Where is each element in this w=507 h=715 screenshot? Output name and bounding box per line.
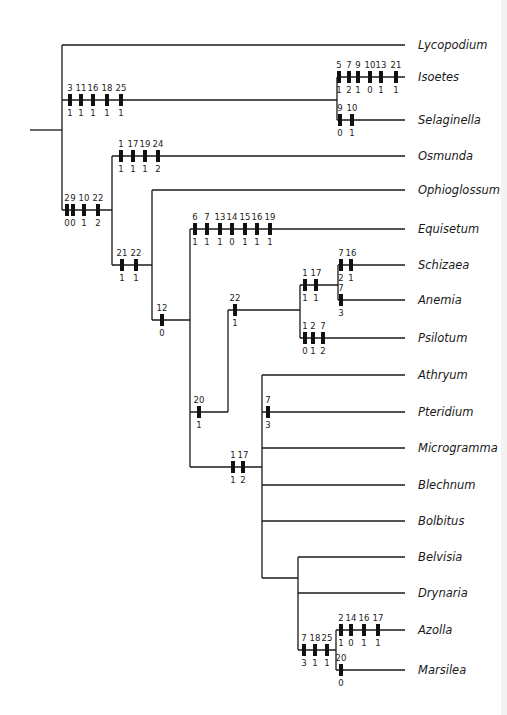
synapomorphy-bar-icon [143, 150, 147, 162]
character-number: 1 [118, 139, 123, 149]
synapomorphy-bar-icon [231, 461, 235, 473]
character-number: 1 [302, 321, 307, 331]
synapomorphy-bar-icon [368, 71, 372, 83]
character-state: 0 [338, 678, 343, 688]
character-state: 1 [142, 164, 147, 174]
character-state: 1 [118, 164, 123, 174]
character-number: 9 [70, 193, 75, 203]
character-state: 1 [217, 237, 222, 247]
character-change-mark: 61 [192, 212, 197, 247]
synapomorphy-bar-icon [230, 223, 234, 235]
character-number: 16 [252, 212, 263, 222]
character-number: 21 [117, 248, 128, 258]
character-state: 1 [196, 420, 201, 430]
character-state: 2 [155, 164, 160, 174]
taxon-labels: LycopodiumIsoetesSelaginellaOsmundaOphio… [417, 38, 500, 677]
character-number: 25 [116, 83, 127, 93]
character-state: 0 [367, 85, 372, 95]
synapomorphy-bar-icon [243, 223, 247, 235]
synapomorphy-bar-icon [68, 94, 72, 106]
character-change-mark: 11 [118, 139, 123, 174]
synapomorphy-bar-icon [255, 223, 259, 235]
character-state: 0 [302, 346, 307, 356]
taxon-label: Pteridium [418, 405, 473, 419]
synapomorphy-bar-icon [65, 204, 69, 216]
character-number: 15 [240, 212, 251, 222]
taxon-label: Athryum [417, 368, 468, 382]
character-number: 9 [337, 103, 342, 113]
character-number: 13 [215, 212, 226, 222]
character-number: 6 [192, 212, 197, 222]
character-state: 1 [310, 346, 315, 356]
synapomorphy-bar-icon [241, 461, 245, 473]
synapomorphy-bar-icon [205, 223, 209, 235]
synapomorphy-bar-icon [105, 94, 109, 106]
character-state: 1 [119, 273, 124, 283]
synapomorphy-bar-icon [71, 204, 75, 216]
synapomorphy-bar-icon [356, 71, 360, 83]
synapomorphy-bar-icon [337, 71, 341, 83]
taxon-label: Blechnum [418, 478, 476, 492]
character-state: 1 [232, 318, 237, 328]
character-number: 2 [310, 321, 315, 331]
character-state: 1 [302, 293, 307, 303]
character-number: 17 [128, 139, 139, 149]
taxon-label: Belvisia [418, 550, 462, 564]
character-number: 3 [67, 83, 72, 93]
character-number: 16 [359, 613, 370, 623]
character-number: 11 [76, 83, 87, 93]
character-change-mark: 91 [355, 60, 360, 95]
tree-branches [30, 45, 405, 670]
character-number: 10 [79, 193, 90, 203]
character-state: 1 [230, 475, 235, 485]
synapomorphy-bar-icon [339, 624, 343, 636]
character-change-mark: 73 [301, 633, 306, 668]
character-state: 1 [204, 237, 209, 247]
synapomorphy-bar-icon [91, 94, 95, 106]
character-state: 1 [133, 273, 138, 283]
cladogram: 3111116118125151729110013121190101209010… [0, 0, 507, 715]
character-change-mark: 73 [338, 283, 343, 318]
taxon-label: Drynaria [418, 586, 468, 600]
taxon-label: Microgramma [418, 441, 498, 455]
synapomorphy-bar-icon [376, 624, 380, 636]
character-state: 3 [265, 420, 270, 430]
synapomorphy-bar-icon [302, 644, 306, 656]
character-state: 2 [95, 218, 100, 228]
character-state: 1 [378, 85, 383, 95]
character-number: 18 [102, 83, 113, 93]
synapomorphy-bar-icon [338, 114, 342, 126]
character-state: 3 [301, 658, 306, 668]
character-number: 7 [346, 60, 351, 70]
character-state: 1 [393, 85, 398, 95]
character-state: 0 [70, 218, 75, 228]
synapomorphy-bar-icon [119, 150, 123, 162]
character-number: 20 [194, 395, 205, 405]
character-state: 1 [313, 293, 318, 303]
synapomorphy-bar-icon [233, 304, 237, 316]
character-change-mark: 51 [336, 60, 341, 95]
synapomorphy-bar-icon [311, 332, 315, 344]
character-state: 1 [254, 237, 259, 247]
synapomorphy-bar-icon [303, 332, 307, 344]
character-state: 0 [229, 237, 234, 247]
synapomorphy-bar-icon [349, 259, 353, 271]
synapomorphy-bar-icon [119, 94, 123, 106]
character-state: 1 [78, 108, 83, 118]
character-state: 1 [67, 108, 72, 118]
character-state: 1 [81, 218, 86, 228]
taxon-label: Ophioglossum [418, 183, 500, 197]
character-change-mark: 73 [265, 395, 270, 430]
synapomorphy-bar-icon [339, 294, 343, 306]
character-number: 20 [336, 653, 347, 663]
taxon-label: Psilotum [418, 331, 467, 345]
taxon-label: Anemia [417, 293, 462, 307]
character-change-mark: 10 [302, 321, 307, 356]
character-state: 2 [346, 85, 351, 95]
character-change-mark: 90 [337, 103, 342, 138]
character-number: 9 [355, 60, 360, 70]
character-change-mark: 72 [320, 321, 325, 356]
character-state: 1 [348, 273, 353, 283]
character-number: 16 [88, 83, 99, 93]
character-state: 1 [267, 237, 272, 247]
